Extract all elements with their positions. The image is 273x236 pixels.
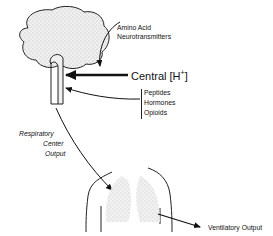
label-center: Center [43, 140, 63, 148]
label-central-text: Central [H [131, 70, 181, 82]
label-opioids: Opioids [144, 109, 167, 117]
brain-illustration [20, 6, 109, 104]
label-output: Output [45, 150, 65, 158]
label-central-close: ] [185, 70, 188, 82]
label-peptides: Peptides [144, 89, 170, 97]
label-amino-acid: Amino Acid [117, 24, 151, 32]
peptides-arrow [66, 88, 140, 99]
label-respiratory: Respiratory [19, 130, 54, 138]
lungs-illustration [106, 176, 160, 222]
label-ventilatory-output: Ventilatory Output [208, 224, 262, 232]
label-neurotransmitters: Neurotransmitters [117, 33, 171, 41]
peptides-bracket [141, 89, 142, 119]
ventilatory-output-arrow [158, 214, 200, 227]
label-hormones: Hormones [144, 99, 175, 107]
label-central-h: Central [H+] [131, 69, 188, 82]
